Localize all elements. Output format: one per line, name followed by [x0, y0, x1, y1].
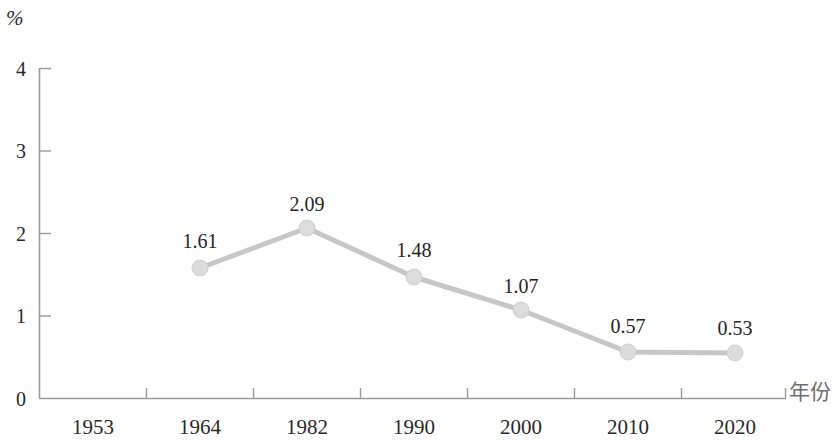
y-axis-ticks [40, 69, 52, 317]
y-tick-label-4: 4 [0, 59, 26, 79]
x-tick-label-1953: 1953 [38, 417, 148, 438]
chart-canvas [0, 0, 834, 446]
data-point-1964 [192, 260, 208, 276]
line-chart: % 4 3 2 1 0 1953 1964 1982 1990 2000 201… [0, 0, 834, 446]
y-tick-label-0: 0 [0, 389, 26, 409]
data-label-2020: 0.53 [690, 318, 780, 338]
y-axis-unit-label: % [6, 8, 24, 29]
data-point-1982 [299, 220, 315, 236]
data-point-1990 [406, 269, 422, 285]
x-tick-label-1964: 1964 [145, 417, 255, 438]
x-tick-label-2010: 2010 [573, 417, 683, 438]
data-point-2010 [620, 344, 636, 360]
x-tick-label-2000: 2000 [466, 417, 576, 438]
x-tick-label-1990: 1990 [359, 417, 469, 438]
data-label-1964: 1.61 [155, 231, 245, 251]
data-label-2000: 1.07 [476, 276, 566, 296]
y-tick-label-2: 2 [0, 224, 26, 244]
x-axis-title: 年份 [789, 382, 831, 403]
data-label-2010: 0.57 [583, 316, 673, 336]
x-axis-ticks [147, 388, 786, 399]
x-tick-label-1982: 1982 [252, 417, 362, 438]
data-label-1982: 2.09 [262, 194, 352, 214]
x-tick-label-2020: 2020 [680, 417, 790, 438]
data-point-2000 [513, 302, 529, 318]
data-label-1990: 1.48 [369, 240, 459, 260]
y-tick-label-1: 1 [0, 306, 26, 326]
data-point-2020 [727, 345, 743, 361]
y-tick-label-3: 3 [0, 141, 26, 161]
